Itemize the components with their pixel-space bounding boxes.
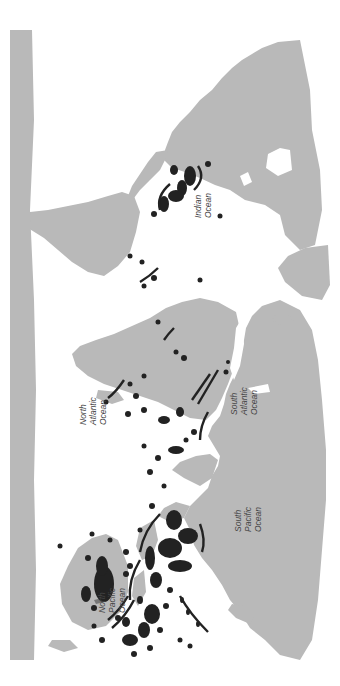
land-south-america: [14, 192, 140, 276]
land-new-zealand: [48, 640, 78, 652]
land-central-america: [128, 150, 168, 198]
reef-cluster-brazil: [128, 254, 159, 289]
land-north-america: [164, 40, 322, 250]
reef-bermuda: [218, 214, 223, 219]
land-antarctica: [10, 30, 36, 660]
reef-east-pacific: [58, 544, 63, 549]
world-map-figure: Indian Ocean North Atlantic Ocean South …: [0, 0, 340, 686]
reef-cluster-hawaii: [178, 596, 209, 649]
map-canvas: Indian Ocean North Atlantic Ocean South …: [0, 0, 340, 686]
label-indian-ocean: Indian Ocean: [193, 192, 213, 218]
label-south-pacific-ocean: South Pacific Ocean: [233, 505, 263, 532]
land-greenland: [278, 245, 330, 300]
